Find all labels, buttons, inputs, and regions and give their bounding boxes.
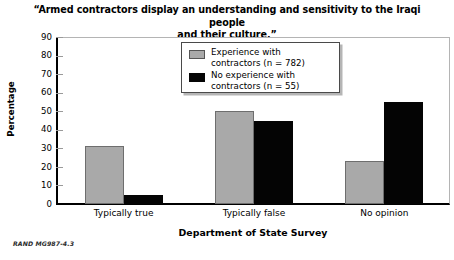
y-axis-tick-label: 10 — [28, 181, 52, 190]
legend-item-no-experience: No experience with contractors (n = 55) — [189, 70, 339, 91]
y-axis-tick — [56, 93, 63, 94]
chart-title: “Armed contractors display an understand… — [18, 4, 436, 42]
y-axis-tick — [56, 185, 63, 186]
legend-swatch-icon-series-0 — [189, 50, 205, 59]
legend-label-series-0-line-2: contractors (n = 782) — [211, 58, 305, 68]
legend-swatch-icon-series-1 — [189, 73, 205, 82]
x-axis-category-label: Typically false — [194, 208, 314, 218]
legend-label-series-0-line-1: Experience with — [211, 47, 281, 57]
y-axis-tick-label: 20 — [28, 163, 52, 172]
y-axis-tick-label: 60 — [28, 88, 52, 97]
y-axis-title: Percentage — [6, 73, 16, 145]
bar-1-0 — [124, 195, 163, 204]
y-axis-tick-label: 40 — [28, 125, 52, 134]
chart-title-line-1: “Armed contractors display an understand… — [33, 4, 420, 28]
bar-0-1 — [215, 111, 254, 204]
y-axis-tick-label: 70 — [28, 70, 52, 79]
y-axis-tick — [56, 148, 63, 149]
y-axis-tick — [56, 167, 63, 168]
source-note: RAND MG987-4.3 — [13, 240, 74, 247]
legend-label-series-1-line-1: No experience with — [211, 70, 295, 80]
bar-0-0 — [85, 146, 124, 204]
y-axis-tick — [56, 56, 63, 57]
legend-label-series-0: Experience with contractors (n = 782) — [211, 47, 305, 68]
y-axis-tick-label: 30 — [28, 144, 52, 153]
y-axis-tick — [56, 111, 63, 112]
y-axis-tick-label: 90 — [28, 33, 52, 42]
y-axis-tick-label: 80 — [28, 51, 52, 60]
y-axis-tick-label: 0 — [28, 200, 52, 209]
bar-0-2 — [345, 161, 384, 204]
legend-item-experience: Experience with contractors (n = 782) — [189, 47, 339, 68]
chart-legend: Experience with contractors (n = 782) No… — [181, 42, 340, 93]
bar-1-2 — [384, 102, 423, 204]
legend-label-series-1: No experience with contractors (n = 55) — [211, 70, 299, 91]
chart-figure: “Armed contractors display an understand… — [0, 0, 454, 260]
x-axis-category-label: Typically true — [64, 208, 184, 218]
bar-1-1 — [254, 121, 293, 205]
y-axis-tick — [56, 74, 63, 75]
y-axis-tick-label: 50 — [28, 107, 52, 116]
x-axis-title: Department of State Survey — [56, 227, 450, 238]
y-axis-tick — [56, 37, 63, 38]
x-axis-category-label: No opinion — [324, 208, 444, 218]
legend-label-series-1-line-2: contractors (n = 55) — [211, 81, 299, 91]
y-axis-tick — [56, 130, 63, 131]
